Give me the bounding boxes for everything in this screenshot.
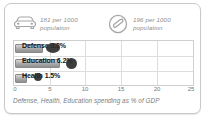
- gridline-10: [85, 41, 86, 85]
- stat-vehicles: 181 per 1000 population: [12, 9, 105, 38]
- stat-telephones: 196 per 1000 population: [105, 9, 195, 38]
- stats-row: 181 per 1000 population 196 per 1000 pop…: [12, 9, 195, 38]
- render-smudge-education: [66, 58, 77, 69]
- info-panel: 181 per 1000 population 196 per 1000 pop…: [4, 3, 201, 114]
- gridline-15: [121, 41, 122, 85]
- x-tick-0: 0: [13, 86, 16, 92]
- x-tick-15: 15: [118, 86, 125, 92]
- stat-vehicles-unit: population: [40, 24, 105, 32]
- x-tick-5: 5: [48, 86, 51, 92]
- bar-label-education: Education 6.2%: [22, 57, 72, 64]
- x-axis: 0 5 10 15 20 25: [13, 86, 194, 95]
- stat-vehicles-text: 181 per 1000 population: [37, 16, 105, 31]
- stat-telephones-text: 196 per 1000 population: [130, 16, 195, 31]
- plot-area: Defense 3.8% Education 6.2% Health 1.5%: [13, 40, 194, 86]
- x-tick-10: 10: [82, 86, 89, 92]
- render-smudge-defense: [46, 43, 60, 53]
- x-tick-25: 25: [188, 86, 195, 92]
- spending-bar-chart: Defense 3.8% Education 6.2% Health 1.5%: [13, 40, 194, 86]
- stat-telephones-unit: population: [133, 24, 195, 32]
- x-tick-20: 20: [154, 86, 161, 92]
- car-front-icon: [12, 13, 37, 35]
- telephone-circle-icon: [105, 13, 130, 35]
- gridline-20: [157, 41, 158, 85]
- chart-caption: Defense, Health, Education spending as %…: [13, 97, 199, 104]
- stat-telephones-value: 196 per 1000: [133, 16, 171, 23]
- stat-vehicles-value: 181 per 1000: [40, 16, 78, 23]
- render-smudge-health: [34, 73, 42, 81]
